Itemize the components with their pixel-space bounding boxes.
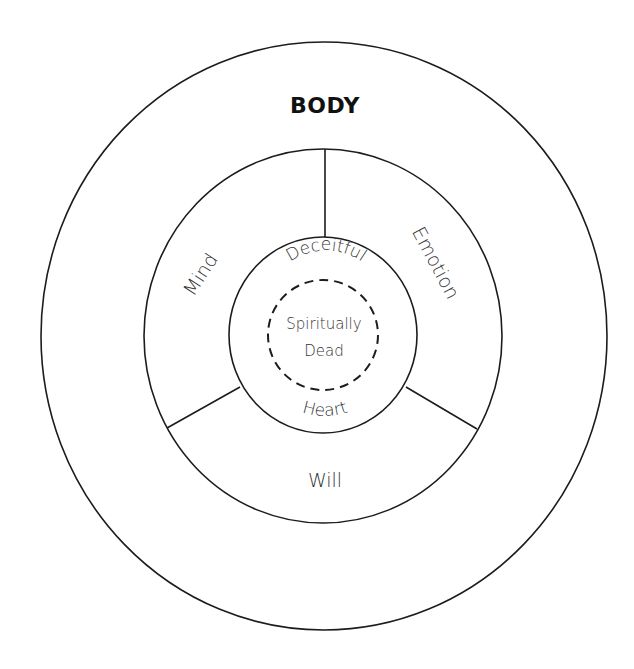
label-mind: Mind xyxy=(178,249,221,299)
divider-right xyxy=(406,387,477,429)
label-body: BODY xyxy=(290,93,361,118)
soul-middle-circle xyxy=(144,149,502,523)
label-deceitful: Deceitful xyxy=(282,234,370,265)
label-dead: Dead xyxy=(304,342,344,360)
label-heart-path: Heart xyxy=(301,397,350,420)
spirit-core-dashed-circle xyxy=(268,280,378,390)
body-outer-circle xyxy=(41,42,607,630)
divider-left xyxy=(167,387,240,428)
body-soul-heart-diagram: BODY Mind Emotion Will Deceitful Heart S… xyxy=(0,0,634,669)
label-heart: Heart xyxy=(301,397,350,420)
label-deceitful-path: Deceitful xyxy=(282,234,370,265)
label-spiritually: Spiritually xyxy=(286,315,361,333)
label-will: Will xyxy=(308,469,342,491)
label-emotion: Emotion xyxy=(408,223,464,303)
